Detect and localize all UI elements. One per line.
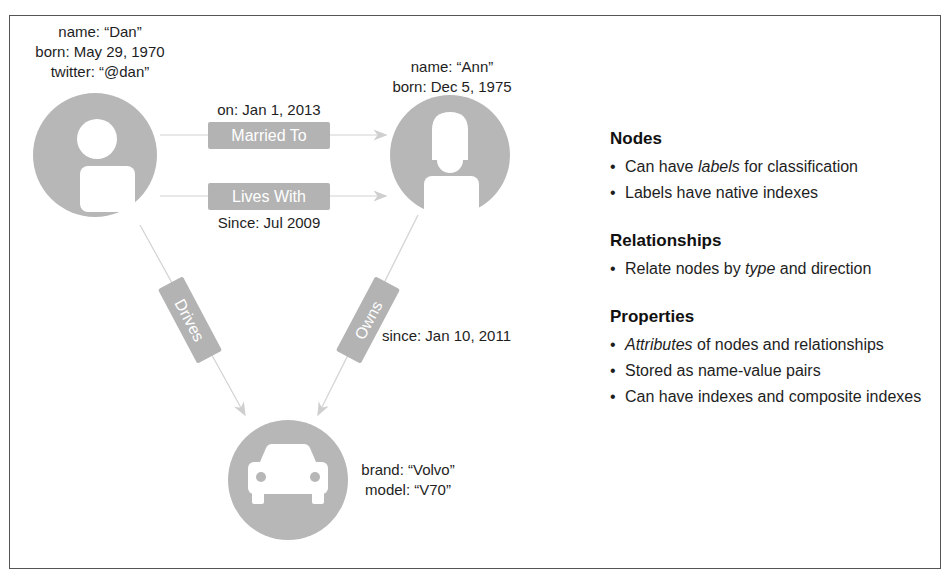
node-car [228,420,348,540]
property-twitter: twitter: “@dan” [25,62,175,82]
property-model: model: “V70” [343,480,473,500]
relationship-owns: Owns [336,276,400,363]
legend-relationships: Relationships Relate nodes by type and d… [610,230,930,282]
legend-properties-title: Properties [610,306,930,328]
legend-item: Attributes of nodes and relationships [610,332,930,358]
legend-item: Can have labels for classification [610,154,930,180]
legend-properties: Properties Attributes of nodes and relat… [610,306,930,410]
property-name: name: “Ann” [377,57,527,77]
property-born: born: May 29, 1970 [25,42,175,62]
legend-item: Labels have native indexes [610,180,930,206]
node-ann [390,95,510,217]
legend-relationships-title: Relationships [610,230,930,252]
relationship-type-label: Lives With [232,188,306,205]
node-car-properties: brand: “Volvo” model: “V70” [343,460,473,500]
node-dan-properties: name: “Dan” born: May 29, 1970 twitter: … [25,22,175,82]
node-ann-properties: name: “Ann” born: Dec 5, 1975 [377,57,527,97]
relationship-married-to: Married To [208,122,330,149]
legend-panel: Nodes Can have labels for classification… [610,128,930,434]
property-born: born: Dec 5, 1975 [377,77,527,97]
relationship-drives: Drives [158,276,222,363]
legend-item: Stored as name-value pairs [610,358,930,384]
relationship-type-label: Married To [231,127,306,144]
node-dan [33,93,157,217]
property-brand: brand: “Volvo” [343,460,473,480]
property-name: name: “Dan” [25,22,175,42]
relationship-lives-with: Lives With [208,183,330,210]
legend-item: Can have indexes and composite indexes [610,384,930,410]
legend-item: Relate nodes by type and direction [610,256,930,282]
legend-nodes: Nodes Can have labels for classification… [610,128,930,206]
married-to-property: on: Jan 1, 2013 [204,100,334,120]
owns-property: since: Jan 10, 2011 [382,326,511,346]
lives-with-property: Since: Jul 2009 [204,213,334,233]
legend-nodes-title: Nodes [610,128,930,150]
